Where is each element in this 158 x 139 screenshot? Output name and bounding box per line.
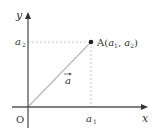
y-axis-label: y <box>15 9 23 22</box>
point-a-dot <box>89 40 94 45</box>
point-a-label: A(a1, a2) <box>96 37 138 49</box>
x-axis-label: x <box>142 112 149 125</box>
x-tick-label: a <box>86 113 92 124</box>
vector-label: a <box>65 75 71 86</box>
vector-oa <box>28 43 90 107</box>
y-tick-label: a <box>15 36 21 47</box>
y-tick-subscript: 2 <box>22 41 26 48</box>
vector-diagram: y x O a 2 a 1 A(a1, a2) a <box>0 0 158 139</box>
x-axis-arrow-icon <box>141 104 148 110</box>
origin-label: O <box>16 114 24 125</box>
x-tick-subscript: 1 <box>93 118 97 125</box>
y-axis-arrow-icon <box>25 12 31 19</box>
